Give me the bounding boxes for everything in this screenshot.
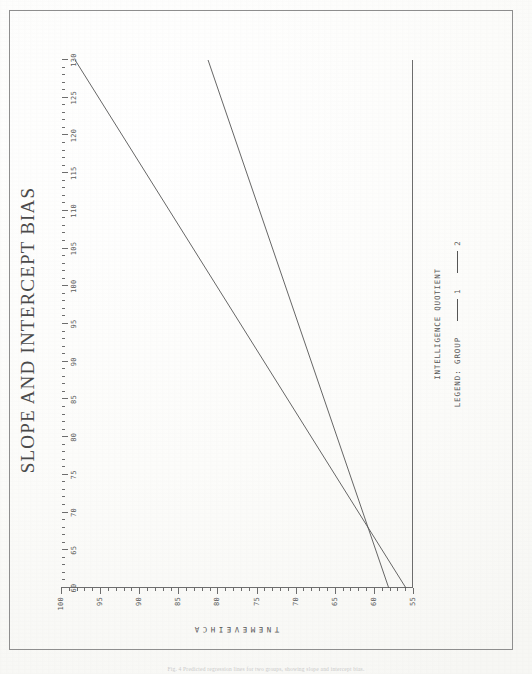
legend-title: LEGEND: GROUP bbox=[453, 337, 462, 407]
y-tick-minor bbox=[366, 588, 367, 591]
y-tick-minor bbox=[303, 588, 304, 591]
legend-line-icon bbox=[457, 251, 458, 273]
y-tick-major bbox=[178, 588, 179, 594]
y-tick-label: 90 bbox=[135, 597, 143, 606]
legend-line-icon bbox=[457, 299, 458, 321]
plot-area: 6065707580859095100105110115120125130 55… bbox=[61, 60, 413, 588]
y-tick-minor bbox=[241, 588, 242, 591]
y-tick-minor bbox=[343, 588, 344, 591]
y-axis-title-letter: E bbox=[259, 625, 264, 633]
y-tick-minor bbox=[264, 588, 265, 591]
legend-item-label: 1 bbox=[453, 289, 462, 294]
y-tick-label: 55 bbox=[409, 597, 417, 606]
y-axis-title-letter: V bbox=[235, 625, 240, 633]
y-axis-title-letter: C bbox=[203, 625, 208, 633]
y-tick-minor bbox=[171, 588, 172, 591]
y-tick-major bbox=[100, 588, 101, 594]
y-tick-label: 75 bbox=[253, 597, 261, 606]
y-tick-minor bbox=[249, 588, 250, 591]
y-tick-major bbox=[257, 588, 258, 594]
y-tick-minor bbox=[350, 588, 351, 591]
y-axis-title-letter: N bbox=[267, 625, 272, 633]
y-axis-title-letter: I bbox=[219, 625, 224, 633]
chart-title: SLOPE AND INTERCEPT BIAS bbox=[17, 10, 39, 650]
series-lines bbox=[61, 60, 413, 588]
y-tick-minor bbox=[319, 588, 320, 591]
y-tick-label: 65 bbox=[331, 597, 339, 606]
y-tick-minor bbox=[288, 588, 289, 591]
chart-legend: LEGEND: GROUP 1 2 bbox=[453, 60, 462, 588]
y-axis-title-letter: E bbox=[227, 625, 232, 633]
y-tick-major bbox=[139, 588, 140, 594]
y-tick-minor bbox=[272, 588, 273, 591]
y-tick-minor bbox=[155, 588, 156, 591]
y-tick-minor bbox=[225, 588, 226, 591]
chart-stage: SLOPE AND INTERCEPT BIAS 606570758085909… bbox=[9, 10, 513, 650]
y-tick-minor bbox=[405, 588, 406, 591]
legend-item-2: 2 bbox=[453, 241, 462, 273]
y-axis-title-letter: H bbox=[211, 625, 216, 633]
y-tick-minor bbox=[108, 588, 109, 591]
y-tick-label: 70 bbox=[292, 597, 300, 606]
y-tick-label: 85 bbox=[174, 597, 182, 606]
y-tick-minor bbox=[186, 588, 187, 591]
y-tick-minor bbox=[210, 588, 211, 591]
y-tick-minor bbox=[233, 588, 234, 591]
y-tick-major bbox=[413, 588, 414, 594]
x-axis-title: INTELLIGENCE QUOTIENT bbox=[433, 60, 442, 588]
y-tick-minor bbox=[124, 588, 125, 591]
y-tick-major bbox=[335, 588, 336, 594]
y-tick-minor bbox=[131, 588, 132, 591]
y-tick-minor bbox=[382, 588, 383, 591]
y-tick-minor bbox=[84, 588, 85, 591]
y-axis-title-letter: T bbox=[275, 625, 280, 633]
y-tick-minor bbox=[69, 588, 70, 591]
y-tick-major bbox=[374, 588, 375, 594]
figure-caption: Fig. 4 Predicted regression lines for tw… bbox=[0, 666, 532, 672]
legend-item-label: 2 bbox=[453, 241, 462, 246]
y-tick-minor bbox=[163, 588, 164, 591]
y-tick-major bbox=[296, 588, 297, 594]
y-tick-label: 80 bbox=[213, 597, 221, 606]
y-tick-minor bbox=[147, 588, 148, 591]
series-line bbox=[75, 60, 406, 588]
y-tick-minor bbox=[202, 588, 203, 591]
y-tick-label: 95 bbox=[96, 597, 104, 606]
y-axis-title-letter: E bbox=[243, 625, 248, 633]
y-tick-minor bbox=[327, 588, 328, 591]
y-axis-title: ACHIEVEMENT bbox=[61, 622, 413, 636]
y-tick-minor bbox=[397, 588, 398, 591]
y-tick-minor bbox=[77, 588, 78, 591]
y-tick-minor bbox=[358, 588, 359, 591]
y-tick-minor bbox=[390, 588, 391, 591]
y-tick-minor bbox=[92, 588, 93, 591]
y-tick-minor bbox=[311, 588, 312, 591]
y-axis-title-letter: A bbox=[195, 625, 200, 633]
series-line bbox=[208, 60, 389, 588]
y-tick-minor bbox=[116, 588, 117, 591]
scanned-page: SLOPE AND INTERCEPT BIAS 606570758085909… bbox=[0, 0, 532, 674]
y-axis-title-letter: M bbox=[251, 625, 256, 633]
y-tick-major bbox=[61, 588, 62, 594]
y-tick-minor bbox=[280, 588, 281, 591]
y-tick-label: 100 bbox=[57, 597, 65, 611]
y-tick-major bbox=[217, 588, 218, 594]
figure-rotation-wrapper: SLOPE AND INTERCEPT BIAS 606570758085909… bbox=[9, 10, 513, 650]
y-tick-minor bbox=[194, 588, 195, 591]
legend-item-1: 1 bbox=[453, 289, 462, 321]
y-tick-label: 60 bbox=[370, 597, 378, 606]
